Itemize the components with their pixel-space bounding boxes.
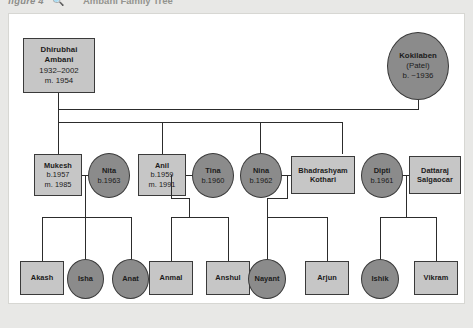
connector-drop-ishik — [380, 217, 381, 261]
connector-union-bar-gen1 — [58, 109, 419, 110]
person-name-line2: Salgaocar — [417, 175, 453, 184]
connector-kokilaben-drop — [418, 100, 419, 109]
person-dates: b.1961 — [371, 176, 394, 185]
person-name: Mukesh — [44, 161, 72, 170]
person-node-anat[interactable]: Anat — [112, 259, 149, 299]
connector-union-drop-gen1 — [58, 109, 59, 122]
connector-union-drop-anil-tina-upper — [171, 175, 172, 198]
person-node-nina[interactable]: Nina b.1962 — [240, 153, 282, 198]
person-name: Nayant — [255, 274, 280, 283]
person-node-nayant[interactable]: Nayant — [248, 259, 286, 299]
connector-sibling-bar-anil — [171, 217, 228, 218]
person-name: Vikram — [424, 273, 449, 282]
connector-drop-anat — [131, 217, 132, 261]
connector-union-drop-nina-upper — [287, 175, 288, 198]
person-dates: 1932–2002 — [39, 66, 78, 76]
figure-caption-label: figure — [8, 0, 36, 6]
person-name: Anshul — [215, 273, 240, 282]
person-marriage: m. 1954 — [45, 76, 74, 86]
figure-caption-title: Ambani Family Tree — [83, 0, 173, 6]
family-tree-canvas: Dhirubhai Ambani 1932–2002 m. 1954 Kokil… — [9, 14, 464, 303]
person-node-dipti[interactable]: Dipti b.1961 — [361, 153, 403, 198]
person-name: Arjun — [317, 273, 337, 282]
connector-union-drop-dipti-dattaraj — [406, 175, 407, 217]
person-dates: b.1963 — [98, 176, 121, 185]
connector-drop-nina — [260, 122, 261, 154]
connector-drop-mukesh — [58, 122, 59, 154]
connector-drop-arjun — [327, 217, 328, 261]
person-node-isha[interactable]: Isha — [67, 259, 104, 299]
person-node-anmal[interactable]: Anmal — [149, 261, 193, 295]
connector-drop-anil — [162, 122, 163, 154]
person-node-tina[interactable]: Tina b.1960 — [192, 153, 234, 198]
person-name: Ishik — [371, 274, 388, 283]
person-node-akash[interactable]: Akash — [20, 261, 64, 295]
connector-drop-anshul — [228, 217, 229, 261]
connector-union-jog-nina — [267, 198, 288, 199]
connector-sibling-bar-dipti — [380, 217, 436, 218]
connector-union-jog-anil-tina — [171, 198, 190, 199]
person-dates: b.1957 — [47, 170, 70, 179]
person-name: Dipti — [374, 166, 391, 175]
connector-sibling-bar-mukesh — [42, 217, 131, 218]
connector-sibling-bar-nina — [267, 217, 327, 218]
person-node-dattaraj[interactable]: Dattaraj Salgaocar — [409, 156, 461, 194]
person-node-kokilaben[interactable]: Kokilaben (Patel) b. ~1936 — [387, 32, 449, 100]
magnifier-icon: 🔍 — [52, 0, 64, 6]
person-node-nita[interactable]: Nita b.1963 — [88, 153, 130, 198]
person-node-arjun[interactable]: Arjun — [305, 261, 349, 295]
person-dates: b. ~1936 — [403, 71, 434, 81]
connector-drop-isha — [85, 217, 86, 261]
connector-sibling-bar-gen2 — [58, 122, 342, 123]
connector-union-drop-anil-tina-lower — [189, 198, 190, 217]
connector-union-drop-mukesh-nita — [85, 175, 86, 217]
person-node-bhadrashyam[interactable]: Bhadrashyam Kothari — [291, 156, 355, 194]
connector-union-drop-nina-lower — [267, 198, 268, 217]
person-name: Anil — [155, 161, 169, 170]
person-maiden-name: (Patel) — [406, 61, 429, 71]
connector-drop-vikram — [436, 217, 437, 261]
person-name-line2: Kothari — [310, 175, 336, 184]
figure-caption-strip: figure 4 🔍 Ambani Family Tree — [0, 0, 473, 13]
person-name: Isha — [78, 274, 93, 283]
family-tree-panel: Dhirubhai Ambani 1932–2002 m. 1954 Kokil… — [8, 13, 465, 304]
person-name-line1: Dhirubhai — [41, 45, 78, 55]
connector-drop-nayant — [267, 217, 268, 261]
person-name-line1: Dattaraj — [421, 166, 449, 175]
person-name: Anat — [122, 274, 139, 283]
person-name-line2: Ambani — [45, 55, 74, 65]
connector-dhirubhai-drop — [58, 93, 59, 109]
person-node-dhirubhai[interactable]: Dhirubhai Ambani 1932–2002 m. 1954 — [23, 38, 95, 93]
person-name: Akash — [31, 273, 53, 282]
connector-drop-akash — [42, 217, 43, 261]
person-marriage: m. 1985 — [44, 180, 71, 189]
person-dates: b.1960 — [202, 176, 225, 185]
person-name: Anmal — [160, 273, 183, 282]
person-node-anil[interactable]: Anil b.1959 m. 1991 — [138, 154, 186, 196]
person-node-ishik[interactable]: Ishik — [361, 259, 399, 299]
person-node-anshul[interactable]: Anshul — [206, 261, 250, 295]
person-node-vikram[interactable]: Vikram — [414, 261, 458, 295]
person-name-line1: Kokilaben — [399, 51, 437, 61]
connector-drop-anmal — [171, 217, 172, 261]
person-name-line1: Bhadrashyam — [298, 166, 347, 175]
connector-drop-dipti — [342, 122, 343, 154]
person-name: Tina — [205, 166, 220, 175]
figure-caption-number: 4 — [38, 0, 43, 6]
person-name: Nina — [253, 166, 269, 175]
person-name: Nita — [102, 166, 116, 175]
person-node-mukesh[interactable]: Mukesh b.1957 m. 1985 — [34, 154, 82, 196]
person-dates: b.1962 — [250, 176, 273, 185]
connector-union-anil-tina — [186, 175, 192, 176]
